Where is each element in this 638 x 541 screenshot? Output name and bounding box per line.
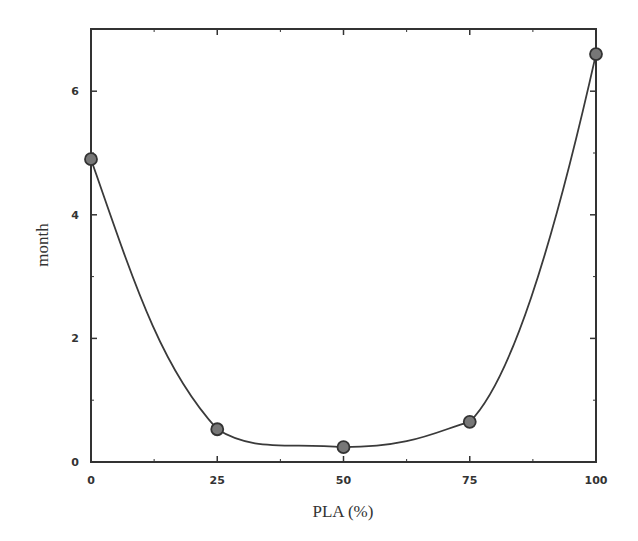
x-axis-label: PLA (%) (313, 502, 374, 521)
y-tick-label: 0 (71, 456, 79, 469)
data-point (85, 153, 97, 165)
plot-frame (91, 29, 596, 462)
minor-ticks (91, 29, 596, 462)
y-tick-label: 6 (71, 85, 79, 98)
data-curve (91, 54, 596, 447)
y-axis-ticks: 0246 (71, 85, 596, 469)
data-markers (85, 48, 602, 453)
data-point (211, 423, 223, 435)
x-tick-label: 100 (585, 474, 608, 487)
x-tick-label: 50 (336, 474, 352, 487)
y-tick-label: 4 (71, 209, 79, 222)
x-axis-ticks: 0255075100 (87, 29, 608, 487)
data-point (464, 416, 476, 428)
chart: 0246 0255075100 PLA (%) month (0, 0, 638, 541)
y-axis-label: month (33, 223, 52, 267)
data-point (590, 48, 602, 60)
y-tick-label: 2 (71, 332, 79, 345)
data-point (338, 441, 350, 453)
x-tick-label: 75 (462, 474, 477, 487)
x-tick-label: 25 (210, 474, 225, 487)
x-tick-label: 0 (87, 474, 95, 487)
